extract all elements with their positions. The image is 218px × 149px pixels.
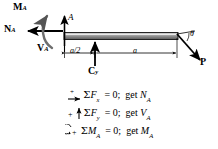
dimension-lines (65, 38, 178, 58)
figure-container: MA NA VA A Cy P θ a/2 a + ΣFx = 0; get N… (0, 0, 218, 149)
sum-fx-expression: ΣFx = 0; get NA (83, 89, 150, 102)
svg-text:+: + (68, 110, 73, 119)
angle-theta-label: θ (190, 30, 194, 38)
sum-ma-expression: ΣMA = 0; get MA (81, 125, 153, 138)
shear-reaction-label: VA (37, 43, 49, 53)
equation-row: + ΣFy = 0; get VA (0, 104, 218, 122)
sum-fy-direction-icon: + (68, 106, 84, 120)
sum-fy-expression: ΣFy = 0; get VA (84, 107, 151, 120)
beam-shape (64, 33, 178, 40)
dimension-right-label: a (133, 47, 137, 55)
sum-fx-direction-icon: + (67, 88, 83, 102)
point-a-label: A (68, 13, 74, 22)
sum-ma-direction-icon: + (65, 124, 81, 138)
equation-row: + ΣMA = 0; get MA (0, 122, 218, 140)
pin-force-label: Cy (88, 66, 98, 76)
applied-load-label: P (200, 57, 206, 67)
dimension-left-label: a/2 (70, 47, 80, 55)
normal-reaction-label: NA (4, 24, 16, 34)
applied-load-arrow (177, 31, 200, 60)
svg-text:+: + (70, 88, 74, 96)
equilibrium-equations: + ΣFx = 0; get NA + ΣFy = 0; (0, 86, 218, 140)
svg-text:+: + (72, 128, 77, 137)
moment-reaction-label: MA (13, 2, 27, 12)
equation-row: + ΣFx = 0; get NA (0, 86, 218, 104)
